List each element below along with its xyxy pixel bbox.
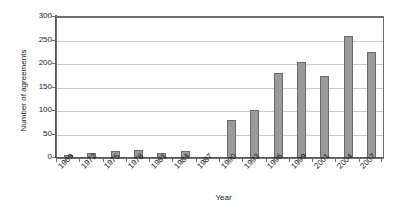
x-axis-title: Year bbox=[0, 193, 417, 202]
y-axis-tick-labels: 050100150200250300 bbox=[14, 10, 52, 162]
y-axis-tick-label: 0 bbox=[14, 153, 52, 161]
y-axis-tick-label: 250 bbox=[14, 36, 52, 44]
bar bbox=[274, 73, 283, 158]
y-axis-tick-label: 100 bbox=[14, 106, 52, 114]
y-axis-tick-label: 150 bbox=[14, 83, 52, 91]
bar bbox=[320, 76, 329, 158]
bar bbox=[297, 62, 306, 158]
bar bbox=[367, 52, 376, 158]
bar bbox=[344, 36, 353, 158]
x-axis-tick-labels: 1969197219751978198119841987199019931996… bbox=[56, 162, 396, 192]
y-axis-tick-label: 300 bbox=[14, 12, 52, 20]
bars-layer bbox=[57, 17, 383, 158]
plot-area bbox=[56, 16, 384, 159]
y-axis-tick-label: 50 bbox=[14, 130, 52, 138]
bar-chart: Number of agreements 050100150200250300 … bbox=[0, 0, 417, 209]
y-axis-tick-label: 200 bbox=[14, 59, 52, 67]
